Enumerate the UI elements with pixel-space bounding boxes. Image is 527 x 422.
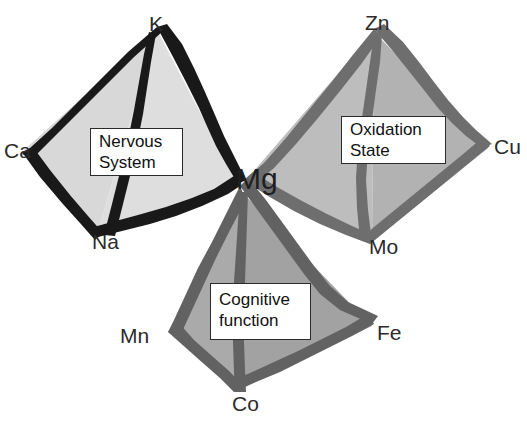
caption-box-cognitive-function: Cognitive function xyxy=(210,283,311,340)
caption-line-nervous-1: Nervous xyxy=(99,132,175,153)
vertex-label-zn: Zn xyxy=(365,12,390,33)
caption-line-oxidation-2: State xyxy=(350,141,438,162)
vertex-label-cu: Cu xyxy=(494,136,521,157)
vertex-label-ca: Ca xyxy=(4,140,31,161)
vertex-label-mn: Mn xyxy=(120,325,149,346)
caption-box-oxidation-state: Oxidation State xyxy=(341,116,446,164)
vertex-label-co: Co xyxy=(232,393,259,414)
caption-line-oxidation-1: Oxidation xyxy=(350,120,438,141)
caption-line-nervous-2: System xyxy=(99,153,175,174)
pyramids-diagram xyxy=(0,0,527,422)
shared-vertex-label-mg: Mg xyxy=(236,164,278,194)
caption-line-cognitive-1: Cognitive xyxy=(219,290,303,311)
figure-canvas: K Ca Na Zn Cu Mo Mn Fe Co Mg Nervous Sys… xyxy=(0,0,527,422)
vertex-label-na: Na xyxy=(92,231,119,252)
vertex-label-mo: Mo xyxy=(369,236,398,257)
vertex-label-k: K xyxy=(149,13,163,34)
vertex-label-fe: Fe xyxy=(377,322,402,343)
caption-line-cognitive-2: function xyxy=(219,311,303,332)
caption-box-nervous-system: Nervous System xyxy=(90,128,183,176)
